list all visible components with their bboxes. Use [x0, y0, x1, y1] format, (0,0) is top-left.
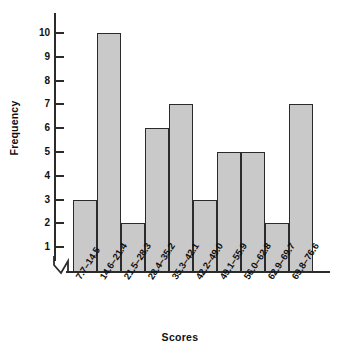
y-axis-tick: [56, 175, 64, 177]
y-axis-tick: [56, 151, 64, 153]
y-axis-tick-label: 7: [30, 99, 50, 109]
y-axis-tick: [56, 32, 64, 34]
y-axis-tick-label: 4: [30, 171, 50, 181]
y-axis-tick-label: 10: [30, 28, 50, 38]
y-axis-tick: [56, 222, 64, 224]
y-axis-tick-label: 3: [30, 195, 50, 205]
y-axis-tick-label: 5: [30, 147, 50, 157]
y-axis-tick: [56, 56, 64, 58]
y-axis-tick: [56, 246, 64, 248]
x-axis-title: Scores: [0, 331, 360, 343]
y-axis-tick-label: 1: [30, 242, 50, 252]
y-axis-tick: [56, 80, 64, 82]
y-axis-tick: [56, 103, 64, 105]
y-axis-tick-label: 6: [30, 123, 50, 133]
histogram-chart: Frequency 10987654321 7.7–14.514.6–21.42…: [0, 0, 360, 353]
y-axis-tick-label: 9: [30, 52, 50, 62]
y-axis-title: Frequency: [8, 88, 20, 168]
y-axis-tick: [56, 199, 64, 201]
y-axis-tick-label: 2: [30, 218, 50, 228]
y-axis-tick: [56, 127, 64, 129]
y-axis-tick-label: 8: [30, 76, 50, 86]
